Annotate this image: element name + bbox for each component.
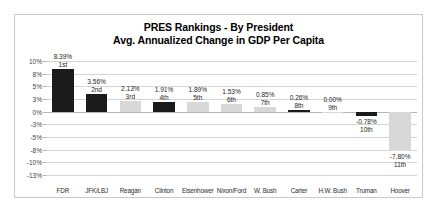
x-axis-tick-label: Reagan: [120, 187, 141, 194]
x-axis-tick-label: FDR: [57, 187, 70, 194]
y-axis-tick-label: 10%: [29, 58, 42, 65]
y-axis-tick-label: 8%: [33, 70, 42, 77]
bar-value-label: -0.78%: [345, 118, 388, 125]
x-axis-category: Truman: [350, 179, 384, 197]
y-axis-tick-label: -5%: [30, 134, 42, 141]
x-axis-category: Clinton: [147, 179, 181, 197]
bar-group: 0.26%8th: [282, 61, 316, 175]
y-axis-tick-label: -3%: [30, 121, 42, 128]
bar[interactable]: [120, 101, 142, 112]
x-axis-category: JFK/LBJ: [80, 179, 114, 197]
x-axis-category: Eisenhower: [181, 179, 215, 197]
bar[interactable]: [322, 112, 344, 113]
bar-group: -7.80%11th: [383, 61, 417, 175]
gridline: [46, 175, 417, 176]
x-axis-tick-label: Hoover: [390, 187, 409, 194]
bar-group: 1.53%6th: [215, 61, 249, 175]
bar[interactable]: [356, 112, 378, 116]
y-axis-tick-label: 0%: [33, 108, 42, 115]
y-axis-tick-label: 3%: [33, 96, 42, 103]
x-axis-category: Hoover: [383, 179, 417, 197]
bar[interactable]: [153, 102, 175, 112]
bar-rank-label: 9th: [311, 104, 354, 111]
bar[interactable]: [389, 112, 411, 152]
bar-value-label: 8.39%: [41, 53, 84, 60]
x-axis-category: W. Bush: [248, 179, 282, 197]
bar-group: 3.56%2nd: [80, 61, 114, 175]
bar[interactable]: [86, 94, 108, 112]
bar[interactable]: [221, 104, 243, 112]
bar[interactable]: [187, 102, 209, 112]
x-axis-category: Reagan: [113, 179, 147, 197]
x-axis-category: Carter: [282, 179, 316, 197]
chart-container: PRES Rankings - By President Avg. Annual…: [14, 14, 423, 198]
plot-wrapper: 10%8%5%3%0%-3%-5%-8%-10%-13% 8.39%1st3.5…: [15, 15, 422, 197]
bar[interactable]: [254, 107, 276, 111]
x-axis-tick-label: W. Bush: [254, 187, 276, 194]
bar-group: 2.13%3rd: [113, 61, 147, 175]
x-axis-tick-label: Clinton: [155, 187, 174, 194]
x-axis-category: Nixon/Ford: [215, 179, 249, 197]
bar-group: 1.89%5th: [181, 61, 215, 175]
bar[interactable]: [52, 69, 74, 112]
bar-rank-label: 1st: [41, 61, 84, 68]
y-axis: 10%8%5%3%0%-3%-5%-8%-10%-13%: [15, 15, 44, 197]
x-axis-tick-label: Truman: [356, 187, 377, 194]
bar-value-label: -7.80%: [379, 153, 422, 160]
x-axis-tick-label: H.W. Bush: [318, 187, 346, 194]
x-axis-tick-label: JFK/LBJ: [85, 187, 108, 194]
x-axis-category: FDR: [46, 179, 80, 197]
bar-group: 1.91%4th: [147, 61, 181, 175]
y-axis-tick-label: -10%: [27, 159, 42, 166]
bar-value-label: 3.56%: [75, 78, 118, 85]
bar-rank-label: 11th: [379, 161, 422, 168]
y-tick-mark: [43, 175, 46, 176]
x-axis-category: H.W. Bush: [316, 179, 350, 197]
y-axis-tick-label: -8%: [30, 146, 42, 153]
bar-rank-label: 10th: [345, 126, 388, 133]
y-axis-tick-label: -13%: [27, 172, 42, 179]
x-axis-tick-label: Nixon/Ford: [217, 187, 246, 194]
bar-value-label: 0.00%: [311, 96, 354, 103]
bar[interactable]: [288, 110, 310, 111]
bar-group: 0.85%7th: [248, 61, 282, 175]
y-axis-tick-label: 5%: [33, 83, 42, 90]
x-axis-tick-label: Eisenhower: [182, 187, 213, 194]
x-axis-tick-label: Carter: [291, 187, 308, 194]
plot-area: 8.39%1st3.56%2nd2.13%3rd1.91%4th1.89%5th…: [46, 61, 417, 175]
